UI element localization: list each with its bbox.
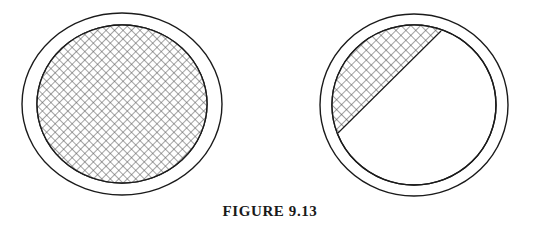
left-circle-group bbox=[20, 10, 230, 205]
right-circle-group bbox=[320, 10, 510, 200]
figure-caption: FIGURE 9.13 bbox=[0, 203, 540, 220]
figure-container: FIGURE 9.13 bbox=[0, 0, 540, 238]
